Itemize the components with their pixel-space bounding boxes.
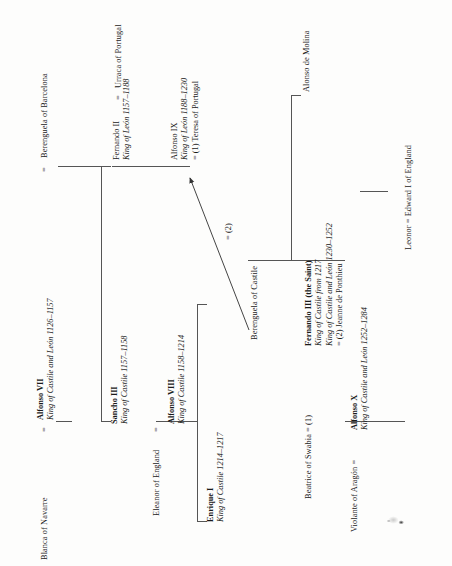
enrique-i-name: Enrique I xyxy=(206,432,216,522)
person-alfonso-vii: Alfonso VII King of Castile and León 112… xyxy=(36,298,57,420)
person-eleanor-of-england: Eleanor of England xyxy=(152,450,162,516)
equals-blanca-sancho: = xyxy=(40,427,50,432)
person-berenguela-of-barcelona: Berenguela of Barcelona xyxy=(40,73,50,158)
sancho-iii-name: Sancho III xyxy=(110,336,120,424)
person-fernando-ii: Fernando II King of León 1157–1188 xyxy=(112,78,133,160)
fernando-ii-name: Fernando II xyxy=(112,78,122,160)
person-urraca-of-portugal: Urraca of Portugal xyxy=(114,24,124,88)
connector-gen3-bracket-top xyxy=(291,95,301,96)
connector-alfonsoviii-children-spine xyxy=(197,304,198,522)
person-alfonso-ix: Alfonso IX King of León 1188–1230 = (1) … xyxy=(170,78,201,160)
person-enrique-i: Enrique I King of Castile 1214–1217 xyxy=(206,432,227,522)
connector-gen3-bracket-bottom xyxy=(291,260,301,261)
alfonso-ix-titles: King of León 1188–1230 xyxy=(180,78,190,160)
fernando-iii-titles-2: King of Castile and León 1230–1252 xyxy=(325,223,335,346)
fernando-iii-titles-1: King of Castile from 1217 xyxy=(314,223,324,346)
person-alfonso-x: Alfonso X King of Castile and León 1252–… xyxy=(350,307,371,430)
connector-fernandoii-to-alfonsoix xyxy=(156,166,190,167)
person-fernando-iii: Fernando III (the Saint) King of Castile… xyxy=(304,223,346,346)
alfonso-vii-name: Alfonso VII xyxy=(36,298,46,420)
connector-alfonsoix-berenguela-rule xyxy=(248,260,292,261)
equals-eleanor-alfonsoviii: = xyxy=(152,427,162,432)
person-alfonso-viii: Alfonso VIII King of Castile 1158–1214 xyxy=(167,335,188,424)
alfonso-viii-titles: King of Castile 1158–1214 xyxy=(177,335,187,424)
genealogy-chart-page: Alfonso VII King of Castile and León 112… xyxy=(0,0,452,566)
connector-alfonsovii-stem xyxy=(58,166,102,167)
connector-alfonsoviii-children-top xyxy=(197,304,207,305)
alfonso-x-titles: King of Castile and León 1252–1284 xyxy=(360,307,370,430)
person-alonso-de-molina: Alonso de Molina xyxy=(302,30,312,92)
person-berenguela-of-castile: Berenguela of Castile xyxy=(250,266,260,340)
sancho-iii-titles: King of Castile 1157–1158 xyxy=(120,336,130,424)
connector-fernandoii-marriage-rule xyxy=(112,166,156,167)
alfonso-ix-name: Alfonso IX xyxy=(170,78,180,160)
scan-smudge-artifact xyxy=(383,510,409,530)
person-beatrice-of-swabia-marriage: Beatrice of Swabia = (1) xyxy=(304,415,314,499)
connector-gen1-bracket-top xyxy=(101,166,111,167)
fernando-iii-name: Fernando III (the Saint) xyxy=(304,223,314,346)
equals-fernandoii-urraca: = xyxy=(114,95,124,100)
person-blanca-of-navarre: Blanca of Navarre xyxy=(40,497,50,560)
person-sancho-iii: Sancho III King of Castile 1157–1158 xyxy=(110,336,131,424)
connector-sancho-marriage-rule xyxy=(56,421,72,422)
connector-gen3-bracket-spine xyxy=(291,95,292,261)
alfonso-vii-titles: King of Castile and León 1126–1157 xyxy=(46,298,56,420)
alfonso-ix-marriage-1: = (1) Teresa of Portugal xyxy=(191,78,201,160)
equals-alfonsovii-berenguela: = xyxy=(40,167,50,172)
person-leonor-marriage: Leonor = Edward I of England xyxy=(404,145,414,250)
fernando-iii-marriage-2: = (2) Jeanne de Ponthieu xyxy=(335,223,345,346)
second-marriage-label: = (2) xyxy=(224,223,234,240)
person-violante-marriage: Violante of Aragón = xyxy=(350,460,360,532)
alfonso-x-name: Alfonso X xyxy=(350,307,360,430)
connector-alfonsox-to-leonor xyxy=(360,191,388,192)
alfonso-viii-name: Alfonso VIII xyxy=(167,335,177,424)
enrique-i-titles: King of Castile 1214–1217 xyxy=(216,432,226,522)
fernando-ii-titles: King of León 1157–1188 xyxy=(122,78,132,160)
connector-gen1-bracket-spine xyxy=(101,166,102,422)
